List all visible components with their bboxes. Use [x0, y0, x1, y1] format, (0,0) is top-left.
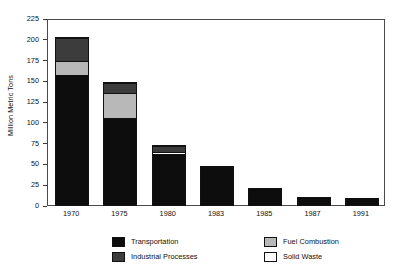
bar-segment-fuel-combustion[interactable]: [56, 61, 88, 75]
x-axis-tick-label: 1987: [288, 209, 338, 218]
y-axis-tick-label: 50: [31, 159, 39, 168]
bar-stack[interactable]: [103, 82, 137, 207]
y-axis-tick-label: 225: [27, 14, 39, 23]
y-axis-tick-label: 25: [31, 180, 39, 189]
x-axis-tick-label: 1980: [143, 209, 193, 218]
legend-item[interactable]: Solid Waste: [264, 251, 322, 262]
chart-container: Million Metric Tons 02550751001251501752…: [0, 0, 405, 272]
legend-swatch-solid: [264, 252, 277, 262]
y-axis-tick-label: 100: [27, 118, 39, 127]
x-axis-tick-label: 1985: [239, 209, 289, 218]
bar-segment-transportation[interactable]: [249, 189, 281, 205]
legend-item[interactable]: Fuel Combustion: [264, 236, 339, 247]
y-axis-tick-label: 0: [35, 201, 39, 210]
x-axis-tick-label: 1975: [94, 209, 144, 218]
legend-label: Fuel Combustion: [283, 238, 339, 245]
bar-segment-industrial-processes[interactable]: [153, 146, 185, 153]
legend-swatch-industrial: [112, 252, 125, 262]
x-axis-tick-label: 1983: [191, 209, 241, 218]
legend-swatch-fuel: [264, 237, 277, 247]
x-axis-tick-label: 1970: [46, 209, 96, 218]
bar-segment-transportation[interactable]: [298, 198, 330, 205]
bar-stack[interactable]: [200, 166, 234, 206]
x-axis-labels: 1970197519801983198519871991: [47, 209, 385, 225]
y-axis-tick-label: 200: [27, 35, 39, 44]
y-axis-title: Million Metric Tons: [0, 0, 20, 210]
bar-segment-industrial-processes[interactable]: [104, 83, 136, 94]
bar-stack[interactable]: [297, 197, 331, 206]
y-axis-tick-label: 175: [27, 56, 39, 65]
bar-segment-transportation[interactable]: [201, 167, 233, 205]
bar-stack[interactable]: [345, 198, 379, 206]
legend-item[interactable]: Industrial Processes: [112, 251, 198, 262]
legend-item[interactable]: Transportation: [112, 236, 178, 247]
bar-stack[interactable]: [248, 188, 282, 206]
legend-label: Industrial Processes: [131, 253, 198, 260]
y-axis-tick-label: 150: [27, 76, 39, 85]
bar-segment-transportation[interactable]: [346, 199, 378, 205]
bar-segment-transportation[interactable]: [153, 154, 185, 205]
legend-swatch-transportation: [112, 237, 125, 247]
bar-segment-transportation[interactable]: [56, 75, 88, 205]
y-axis-tick-label: 75: [31, 139, 39, 148]
x-axis-tick-label: 1991: [336, 209, 386, 218]
bar-segment-fuel-combustion[interactable]: [104, 93, 136, 117]
legend-label: Transportation: [131, 238, 178, 245]
y-axis-tick-label: 125: [27, 97, 39, 106]
y-axis-title-text: Million Metric Tons: [6, 75, 15, 136]
legend-label: Solid Waste: [283, 253, 322, 260]
bars-layer: [47, 19, 385, 206]
bar-stack[interactable]: [55, 37, 89, 206]
bar-segment-transportation[interactable]: [104, 118, 136, 205]
chart-legend: TransportationFuel CombustionIndustrial …: [112, 236, 382, 266]
bar-stack[interactable]: [152, 145, 186, 207]
bar-segment-industrial-processes[interactable]: [56, 38, 88, 61]
